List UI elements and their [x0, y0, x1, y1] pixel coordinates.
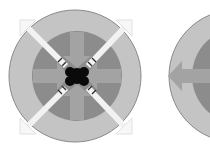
converge-expand-icon — [0, 0, 150, 146]
arrow-left-circle-icon — [140, 0, 210, 146]
